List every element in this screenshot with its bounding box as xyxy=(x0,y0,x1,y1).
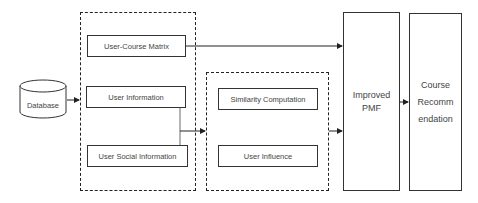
user-course-matrix-node: User-Course Matrix xyxy=(87,35,186,57)
user-information-node: User Information xyxy=(86,86,186,108)
user-influence-node: User Influence xyxy=(218,145,318,167)
user-influence-label: User Influence xyxy=(244,152,292,161)
user-information-label: User Information xyxy=(108,93,163,102)
course-recommendation-label-line3: endation xyxy=(418,111,453,128)
database-label: Database xyxy=(20,101,66,110)
course-recommendation-label-line1: Course xyxy=(421,77,450,94)
user-social-information-label: User Social Information xyxy=(99,152,177,161)
similarity-computation-label: Similarity Computation xyxy=(230,95,305,104)
improved-pmf-label-line1: Improved xyxy=(353,89,391,102)
user-social-information-node: User Social Information xyxy=(87,145,188,167)
course-recommendation-node: Course Recomm endation xyxy=(409,13,462,191)
database-cylinder-icon xyxy=(20,80,66,118)
similarity-computation-node: Similarity Computation xyxy=(218,88,318,110)
course-recommendation-label-line2: Recomm xyxy=(417,94,453,111)
improved-pmf-node: Improved PMF xyxy=(343,12,400,191)
user-course-matrix-label: User-Course Matrix xyxy=(104,42,169,51)
improved-pmf-label-line2: PMF xyxy=(362,102,381,115)
